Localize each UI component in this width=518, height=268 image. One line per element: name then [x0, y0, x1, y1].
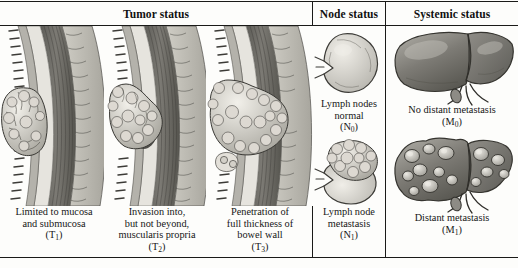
caption-t1-line-1: Limited to mucosa	[15, 206, 92, 217]
caption-t1-code: (T1)	[2, 229, 106, 244]
column-header-node-status: Node status	[313, 5, 385, 24]
caption-t2-line-1: Invasion into,	[129, 206, 186, 217]
caption-n1-line-1: Lymph node	[323, 206, 375, 217]
caption-t3-line-3: bowel wall	[237, 229, 282, 240]
caption-t3: Penetration of full thickness of bowel w…	[208, 206, 312, 256]
caption-n0-code: (N0)	[314, 121, 384, 136]
column-header-tumor-status: Tumor status	[0, 5, 312, 24]
illustration-n0-lymph-node-normal	[313, 28, 385, 100]
caption-t1-line-2: and submucosa	[22, 218, 85, 229]
caption-n0-line-2: normal	[334, 110, 363, 121]
caption-t2-code: (T2)	[104, 241, 210, 256]
illustration-t2-bowel-wall	[104, 26, 210, 206]
caption-n1-line-2: metastasis	[328, 218, 370, 229]
tnm-staging-figure: Tumor status Node status Systemic status	[0, 0, 518, 268]
caption-t1: Limited to mucosa and submucosa (T1)	[2, 206, 106, 244]
table-bottom-border	[0, 257, 518, 258]
caption-n1-code: (N1)	[314, 229, 384, 244]
caption-t2-line-3: muscularis propria	[119, 229, 196, 240]
caption-m1-line-1: Distant metastasis	[415, 212, 490, 223]
caption-t3-line-1: Penetration of	[231, 206, 289, 217]
illustration-t1-bowel-wall	[0, 26, 106, 206]
caption-t3-code: (T3)	[208, 241, 312, 256]
caption-t2: Invasion into, but not beyond, musculari…	[104, 206, 210, 256]
caption-m0: No distant metastasis (M0)	[387, 104, 517, 130]
caption-m0-code: (M0)	[387, 116, 517, 131]
caption-m0-line-1: No distant metastasis	[408, 104, 496, 115]
illustration-t3-bowel-wall	[206, 26, 314, 206]
column-header-systemic-status: Systemic status	[386, 5, 518, 24]
caption-n0-line-1: Lymph nodes	[321, 98, 377, 109]
caption-t3-line-2: full thickness of	[227, 218, 293, 229]
illustration-n1-lymph-node-metastatic	[313, 136, 385, 208]
caption-m1: Distant metastasis (M1)	[387, 212, 517, 238]
table-top-border	[0, 1, 518, 2]
illustration-m0-liver-normal	[386, 28, 518, 106]
caption-m1-code: (M1)	[387, 224, 517, 239]
caption-t2-line-2: but not beyond,	[125, 218, 189, 229]
caption-n1: Lymph node metastasis (N1)	[314, 206, 384, 244]
caption-n0: Lymph nodes normal (N0)	[314, 98, 384, 136]
illustration-m1-liver-metastases	[386, 136, 518, 214]
